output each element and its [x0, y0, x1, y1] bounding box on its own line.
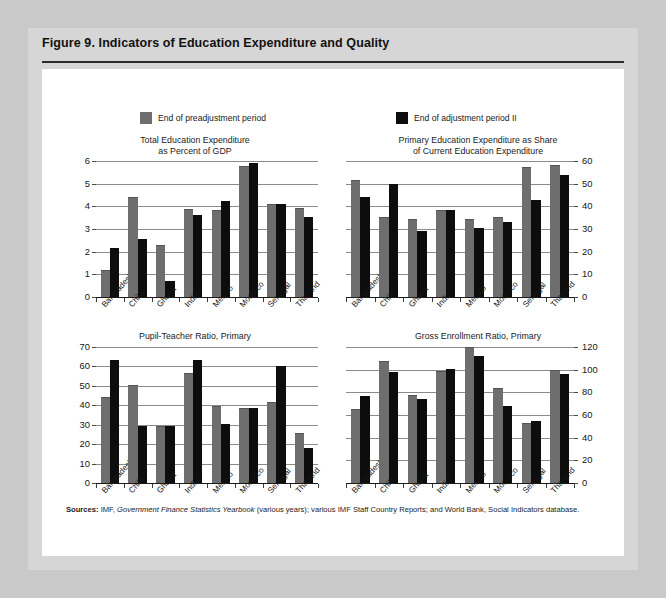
legend-label-preadjustment: End of preadjustment period	[158, 113, 266, 123]
bar	[193, 360, 202, 483]
source-part-1: IMF,	[101, 505, 115, 514]
category-tick	[235, 298, 236, 302]
bar	[221, 201, 230, 297]
y-axis-tick-label: 100	[582, 365, 598, 374]
gridline	[346, 161, 574, 162]
y-axis-tick-label: 50	[582, 179, 592, 188]
y-axis-tick-label: 40	[582, 201, 592, 210]
category-tick	[489, 484, 490, 488]
chart-title-line-2: of Current Education Expenditure	[334, 146, 622, 157]
axis-tick-mark	[574, 415, 578, 416]
bar	[446, 210, 455, 297]
category-tick	[346, 484, 347, 488]
chart-title-line-1: Total Education Expenditure	[54, 135, 336, 146]
chart-title-line-1: Primary Education Expenditure as Share	[334, 135, 622, 146]
bar	[436, 210, 445, 297]
bar	[493, 388, 502, 483]
black-square-icon	[396, 112, 408, 124]
bar	[295, 433, 304, 483]
bar	[379, 361, 388, 483]
category-tick	[152, 298, 153, 302]
axis-tick-mark	[92, 347, 96, 348]
bar	[351, 409, 360, 483]
y-axis-tick-label: 60	[62, 361, 90, 370]
y-axis-tick-label: 0	[582, 292, 587, 301]
category-tick	[517, 484, 518, 488]
category-tick	[290, 298, 291, 302]
y-axis-tick-label: 20	[582, 247, 592, 256]
axis-tick-mark	[574, 184, 578, 185]
y-axis-tick-label: 4	[62, 201, 90, 210]
page-title: Figure 9. Indicators of Education Expend…	[42, 36, 389, 50]
legend-item-adjustment-ii: End of adjustment period II	[396, 112, 517, 124]
category-tick	[432, 298, 433, 302]
category-tick	[263, 484, 264, 488]
chart-title: Gross Enrollment Ratio, Primary	[334, 331, 622, 342]
gridline	[346, 184, 574, 185]
chart-title: Pupil-Teacher Ratio, Primary	[54, 331, 336, 342]
bar	[276, 366, 285, 483]
category-tick	[546, 484, 547, 488]
category-tick	[546, 298, 547, 302]
category-tick	[124, 484, 125, 488]
y-axis-tick-label: 10	[582, 269, 592, 278]
gridline	[346, 347, 574, 348]
bar	[550, 370, 559, 483]
chart-panel-primary-share-of-current-expenditure: Primary Education Expenditure as Shareof…	[334, 135, 622, 360]
y-axis-tick-label: 6	[62, 156, 90, 165]
axis-tick-mark	[574, 252, 578, 253]
category-tick	[96, 484, 97, 488]
category-tick	[207, 298, 208, 302]
bar	[522, 167, 531, 297]
bar	[101, 397, 110, 483]
category-tick	[263, 298, 264, 302]
y-axis-tick-label: 30	[62, 420, 90, 429]
category-tick	[517, 298, 518, 302]
y-axis-tick-label: 0	[62, 292, 90, 301]
category-tick	[124, 298, 125, 302]
bar	[560, 175, 569, 297]
bar	[267, 204, 276, 297]
y-axis-tick-label: 10	[62, 459, 90, 468]
source-note: Sources: IMF, Government Finance Statist…	[66, 504, 586, 516]
axis-tick-mark	[92, 405, 96, 406]
category-tick	[375, 298, 376, 302]
category-tick	[179, 484, 180, 488]
bar	[379, 217, 388, 297]
category-tick	[318, 484, 319, 488]
axis-tick-mark	[92, 444, 96, 445]
bar	[436, 371, 445, 483]
category-tick	[432, 484, 433, 488]
chart-title-line-1: Gross Enrollment Ratio, Primary	[334, 331, 622, 342]
gridline	[96, 184, 318, 185]
bar	[267, 402, 276, 483]
chart-canvas: End of preadjustment period End of adjus…	[42, 69, 624, 556]
axis-tick-mark	[92, 161, 96, 162]
bar	[128, 385, 137, 483]
category-tick	[152, 484, 153, 488]
y-axis-tick-label: 60	[582, 156, 592, 165]
category-tick	[375, 484, 376, 488]
bar	[408, 219, 417, 297]
chart-title: Primary Education Expenditure as Shareof…	[334, 135, 622, 157]
bar	[389, 184, 398, 297]
source-italic-title: Government Finance Statistics Yearbook	[117, 505, 254, 514]
category-tick	[290, 484, 291, 488]
category-tick	[235, 484, 236, 488]
category-tick	[207, 484, 208, 488]
title-divider	[42, 61, 624, 63]
bar	[493, 217, 502, 297]
source-lead: Sources:	[66, 505, 99, 514]
axis-tick-mark	[92, 366, 96, 367]
axis-tick-mark	[92, 229, 96, 230]
bar	[465, 219, 474, 297]
plot-area: 0102030405060BangladeshChileGhanaIndiaMe…	[346, 161, 574, 297]
axis-tick-mark	[92, 184, 96, 185]
plot-area: 010203040506070BangladeshChileGhanaIndia…	[96, 347, 318, 483]
y-axis-tick-label: 20	[582, 455, 592, 464]
legend-label-adjustment-ii: End of adjustment period II	[414, 113, 517, 123]
axis-tick-mark	[92, 464, 96, 465]
axis-tick-mark	[574, 347, 578, 348]
bar	[446, 369, 455, 483]
bar	[239, 166, 248, 297]
